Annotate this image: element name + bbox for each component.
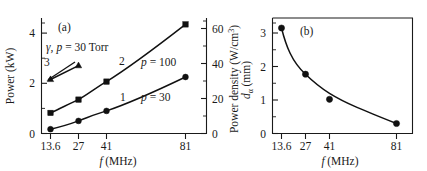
panel-b-xaxis-title-italic: f [322,155,327,168]
panel-b-ytick-1: 1 [260,94,266,106]
panel-a-xtick-41: 41 [101,140,113,152]
panel-b-xaxis-title-rest: (MHz) [327,155,358,168]
panel-a-annot-p: p [55,41,62,54]
panel-a-label-p30-italic: p [140,91,147,104]
panel-b-xtick-13-6: 13.6 [271,140,291,152]
panel-a-right-yaxis-title-tail: ) [228,25,241,29]
panel-a-xtick-27: 27 [73,140,85,152]
panel-b-yaxis-title-sub: α [246,88,255,93]
panel-b-yaxis-title: dα(mm) [240,61,255,99]
panel-b-curve [282,28,397,124]
panel-b-xtick-41: 41 [324,140,336,152]
panel-a-right-ytick-20: 20 [212,93,224,105]
panel-b-curve-markers [278,25,399,127]
panel-a-right-ytick-60: 60 [212,23,224,35]
panel-a-ytick-0: 0 [29,128,35,140]
panel-b: 3 2 1 0 13.6 27 41 81 f(MHz) dα(mm) (b) [240,18,413,168]
panel-a-bottom-ticks [51,134,186,140]
panel-a-curve-1-number: 1 [120,91,126,103]
panel-a-right-ytick-40: 40 [212,58,224,70]
panel-a-curve-2-number: 2 [119,55,125,67]
panel-a-ytick-4: 4 [29,27,35,39]
panel-b-ytick-0: 0 [260,128,266,140]
panel-a-xaxis-title-rest: (MHz) [105,155,136,168]
panel-a-label-p30: p= 30 [140,91,171,104]
panel-a-annotation-gamma: γ,p= 30 Torr [46,41,109,54]
panel-a-right-yaxis-title: Power density (W/cm3) [227,25,241,133]
panel-b-xtick-81: 81 [391,140,403,152]
panel-a-curve-3-number: 3 [44,56,50,68]
panel-b-yaxis-title-rest: (mm) [240,61,253,87]
panel-a-yaxis-title: Power (kW) [4,48,17,105]
panel-a: 4 2 0 60 40 20 0 13.6 27 41 81 f(MHz) Po… [4,18,241,168]
panel-a-label-p100: p= 100 [140,56,177,69]
panel-b-axes-frame [273,18,413,134]
panel-a-xaxis-title-italic: f [100,155,105,168]
panel-b-label: (b) [300,25,314,38]
panel-b-bottom-ticks [282,134,397,140]
panel-a-label: (a) [58,21,71,34]
panel-b-xaxis-title: f(MHz) [322,155,359,168]
panel-a-right-ytick-0: 0 [212,128,218,140]
panel-b-xtick-27: 27 [300,140,312,152]
figure-container: 4 2 0 60 40 20 0 13.6 27 41 81 f(MHz) Po… [0,0,427,171]
panel-b-ytick-2: 2 [260,61,266,73]
panel-a-xtick-13-6: 13.6 [40,140,60,152]
panel-a-axes-frame [42,18,207,134]
panel-a-annot-gamma: γ, [46,41,54,54]
panel-a-xtick-81: 81 [180,140,192,152]
panel-a-curve-3-arrow [47,62,76,81]
panel-a-curve-1-markers [48,74,189,132]
panel-a-ytick-2: 2 [29,77,35,89]
panel-a-label-p100-italic: p [140,56,147,69]
figure-svg: 4 2 0 60 40 20 0 13.6 27 41 81 f(MHz) Po… [0,0,427,171]
panel-a-label-p30-rest: = 30 [150,91,171,103]
panel-a-curve-3 [51,66,79,80]
panel-b-ytick-3: 3 [260,27,266,39]
panel-a-xaxis-title: f(MHz) [100,155,137,168]
panel-a-annot-rest: = 30 Torr [65,41,108,53]
panel-a-label-p100-rest: = 100 [150,56,177,68]
